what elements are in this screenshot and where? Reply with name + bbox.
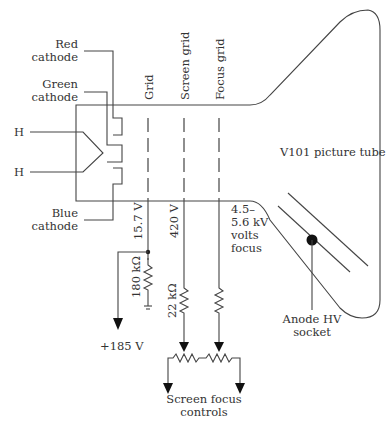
picture-tube-outline bbox=[76, 10, 380, 318]
red-cathode-wire bbox=[84, 51, 122, 135]
heater-filament bbox=[30, 132, 103, 172]
resistor-180k bbox=[144, 258, 152, 306]
anode-band-line bbox=[288, 193, 368, 266]
svg-text:controls: controls bbox=[180, 405, 227, 419]
screen-wiper-arrow bbox=[179, 342, 189, 352]
crt-schematic: Red cathode Green cathode Blue cathode H… bbox=[0, 0, 387, 425]
supply-arrow bbox=[113, 318, 123, 330]
screen-grid-label: Screen grid bbox=[178, 31, 192, 100]
r-grid-label: 180 kΩ bbox=[129, 256, 143, 298]
heater-label: H bbox=[14, 165, 24, 179]
red-cathode-label: Red bbox=[55, 37, 78, 51]
blue-cathode-wire bbox=[84, 168, 122, 220]
green-cathode-wire bbox=[84, 92, 122, 162]
anode-label: Anode HV bbox=[282, 312, 342, 326]
focus-grid-label: Focus grid bbox=[213, 38, 227, 100]
r-screen-label: 22 kΩ bbox=[165, 283, 179, 318]
focus-voltage: 4.5– bbox=[231, 202, 255, 216]
tube-title: V101 picture tube bbox=[279, 145, 386, 159]
resistor-22k bbox=[180, 200, 188, 345]
heater-label: H bbox=[14, 125, 24, 139]
svg-text:cathode: cathode bbox=[32, 90, 79, 104]
control-potentiometers bbox=[168, 354, 240, 383]
grid-label: Grid bbox=[142, 74, 156, 100]
blue-cathode-label: Blue bbox=[52, 206, 79, 220]
svg-text:socket: socket bbox=[293, 325, 331, 339]
screen-voltage: 420 V bbox=[167, 203, 181, 238]
focus-wiper-arrow bbox=[214, 342, 224, 352]
supply-label: +185 V bbox=[100, 339, 144, 353]
svg-text:focus: focus bbox=[231, 241, 262, 255]
svg-text:5.6 kV: 5.6 kV bbox=[231, 215, 269, 229]
svg-text:volts: volts bbox=[230, 228, 259, 242]
svg-text:cathode: cathode bbox=[32, 50, 79, 64]
grid-voltage: 15.7 V bbox=[131, 202, 145, 240]
controls-label: Screen focus bbox=[166, 392, 242, 406]
green-cathode-label: Green bbox=[42, 77, 78, 91]
svg-text:cathode: cathode bbox=[32, 219, 79, 233]
focus-resistor bbox=[215, 200, 223, 345]
